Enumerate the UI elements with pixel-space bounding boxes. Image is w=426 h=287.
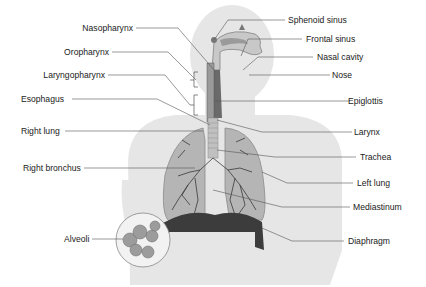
label-trachea: Trachea — [360, 152, 391, 162]
label-right-lung: Right lung — [21, 126, 60, 136]
alveoli-inset — [116, 213, 170, 267]
label-larynx: Larynx — [354, 127, 380, 137]
label-sphenoid-sinus: Sphenoid sinus — [288, 15, 347, 25]
label-alveoli: Alveoli — [64, 234, 89, 244]
label-frontal-sinus: Frontal sinus — [306, 34, 355, 44]
label-epiglottis: Epiglottis — [348, 96, 383, 106]
label-nose: Nose — [332, 70, 352, 80]
label-right-bronchus: Right bronchus — [23, 163, 81, 173]
label-esophagus: Esophagus — [21, 94, 64, 104]
label-mediastinum: Mediastinum — [353, 202, 402, 212]
label-oropharynx: Oropharynx — [30, 47, 109, 57]
label-diaphragm: Diaphragm — [348, 236, 390, 246]
label-left-lung: Left lung — [357, 178, 390, 188]
label-nasopharynx: Nasopharynx — [50, 23, 133, 33]
label-nasal-cavity: Nasal cavity — [317, 52, 363, 62]
label-laryngopharynx: Laryngopharynx — [20, 70, 105, 80]
